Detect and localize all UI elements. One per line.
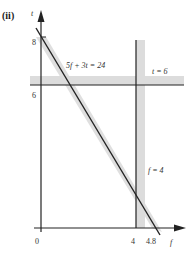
label-f4: f = 4 [148,166,164,175]
y-axis-label: t [31,9,34,18]
label-t6: t = 6 [152,67,168,76]
x-axis-arrow-icon [174,225,186,232]
shade-t6 [30,76,184,85]
x-axis-label: f [170,238,174,247]
constraint-graph: t 8 6 0 4 4.8 f 5f + 3t = 24 t = 6 f = 4 [0,0,194,256]
y-axis-arrow-icon [38,10,45,22]
y-tick-6: 6 [32,91,36,100]
x-tick-4: 4 [131,237,135,246]
y-tick-8: 8 [32,38,36,47]
origin-label: 0 [35,237,39,246]
label-5f-3t-24: 5f + 3t = 24 [66,61,105,70]
x-tick-4-8: 4.8 [146,237,156,246]
